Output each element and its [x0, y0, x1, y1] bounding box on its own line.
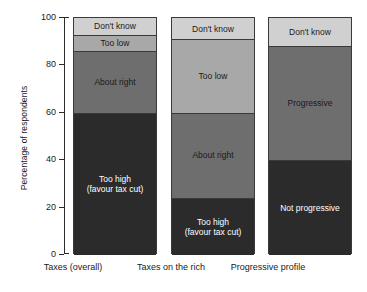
bar-segment-label: Don't know — [192, 24, 234, 34]
bar-segment[interactable]: Don't know — [74, 18, 156, 35]
bar-segment-divider — [269, 46, 351, 47]
plot-area: 020406080100 Too high (favour tax cut)Ab… — [64, 17, 360, 254]
bar-segment[interactable]: Too high (favour tax cut) — [172, 198, 254, 255]
bar-segment-divider — [74, 113, 156, 114]
bar-segment-divider — [74, 51, 156, 52]
y-tick-mark — [59, 159, 64, 160]
bar-2[interactable]: Too high (favour tax cut)About rightToo … — [171, 17, 255, 254]
y-tick-mark — [59, 112, 64, 113]
y-tick-label: 20 — [46, 202, 56, 212]
bar-segment[interactable]: About right — [74, 51, 156, 113]
bar-segment[interactable]: Don't know — [172, 18, 254, 39]
y-axis-bottom-cap — [64, 253, 69, 254]
x-axis-label-3: Progressive profile — [208, 262, 328, 272]
y-axis-line — [64, 17, 65, 254]
bar-segment-divider — [172, 39, 254, 40]
bar-3[interactable]: Not progressiveProgressiveDon't know — [268, 17, 352, 254]
y-axis-title: Percentage of respondents — [19, 38, 29, 238]
bar-segment[interactable]: Don't know — [269, 18, 351, 46]
y-tick-label: 40 — [46, 154, 56, 164]
y-tick-label: 80 — [46, 59, 56, 69]
bar-segment-label: About right — [192, 150, 233, 160]
y-tick-label: 0 — [51, 249, 56, 259]
y-tick-mark — [59, 17, 64, 18]
bar-segment-label: Too high (favour tax cut) — [87, 174, 144, 194]
bar-segment[interactable]: About right — [172, 113, 254, 198]
y-tick-label: 100 — [41, 12, 56, 22]
y-axis-top-cap — [64, 17, 69, 18]
bar-segment-divider — [172, 113, 254, 114]
bar-segment[interactable]: Not progressive — [269, 160, 351, 255]
bar-1[interactable]: Too high (favour tax cut)About rightToo … — [73, 17, 157, 254]
bar-segment[interactable]: Too high (favour tax cut) — [74, 113, 156, 255]
bar-segment-divider — [269, 160, 351, 161]
bar-segment-divider — [172, 198, 254, 199]
bar-segment-label: Too low — [101, 38, 130, 48]
bar-segment-label: About right — [94, 77, 135, 87]
y-tick-mark — [59, 254, 64, 255]
stacked-bar-chart: Percentage of respondents 020406080100 T… — [0, 0, 367, 292]
bar-segment-divider — [74, 35, 156, 36]
bar-segment-label: Don't know — [94, 21, 136, 31]
bar-segment-label: Too high (favour tax cut) — [185, 217, 242, 237]
y-tick-mark — [59, 64, 64, 65]
y-tick-label: 60 — [46, 107, 56, 117]
bar-segment-label: Progressive — [288, 98, 333, 108]
bar-segment-label: Not progressive — [280, 203, 340, 213]
bar-segment-label: Don't know — [289, 27, 331, 37]
bar-segment[interactable]: Progressive — [269, 46, 351, 160]
bar-segment[interactable]: Too low — [172, 39, 254, 112]
bar-segment[interactable]: Too low — [74, 35, 156, 52]
y-tick-mark — [59, 207, 64, 208]
bar-segment-label: Too low — [199, 71, 228, 81]
